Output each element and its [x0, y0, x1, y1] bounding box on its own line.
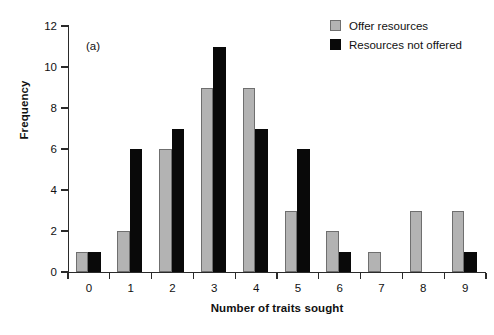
- bar: [130, 149, 143, 272]
- y-axis-tick: 12: [61, 25, 68, 26]
- bar: [326, 231, 339, 272]
- bar: [368, 252, 381, 273]
- legend-item-label: Offer resources: [349, 20, 428, 32]
- x-axis-tick: [67, 273, 68, 279]
- y-axis-tick-label: 6: [51, 143, 57, 155]
- y-axis-tick-label: 12: [44, 20, 57, 32]
- bar: [464, 252, 477, 273]
- bar: [117, 231, 130, 272]
- y-axis-tick: 4: [61, 189, 68, 190]
- bar: [452, 211, 465, 273]
- y-axis-tick: 10: [61, 66, 68, 67]
- chart-legend: Offer resourcesResources not offered: [330, 16, 462, 54]
- x-axis-tick-label: 6: [320, 282, 360, 294]
- bar-chart-figure: Frequency 024681012 0123456789 (a) Numbe…: [0, 0, 494, 335]
- x-axis-tick-label: 7: [362, 282, 402, 294]
- x-axis-tick-label: 5: [278, 282, 318, 294]
- bar: [88, 252, 101, 273]
- x-axis-title: Number of traits sought: [68, 302, 486, 314]
- y-axis-tick-label: 2: [51, 225, 57, 237]
- bar: [297, 149, 310, 272]
- bar: [285, 211, 298, 273]
- y-axis-tick: 2: [61, 230, 68, 231]
- panel-label: (a): [86, 40, 100, 52]
- x-axis-tick: [151, 273, 152, 279]
- y-axis-tick-label: 4: [51, 184, 57, 196]
- x-axis-tick: [235, 273, 236, 279]
- bar: [201, 88, 214, 273]
- y-axis-tick: 6: [61, 148, 68, 149]
- legend-item-label: Resources not offered: [349, 39, 462, 51]
- black-swatch: [330, 39, 341, 50]
- y-axis-title: Frequency: [18, 40, 30, 180]
- bar: [339, 252, 352, 273]
- x-axis-tick-label: 3: [194, 282, 234, 294]
- x-axis-tick: [360, 273, 361, 279]
- x-axis-tick: [402, 273, 403, 279]
- bar: [76, 252, 89, 273]
- x-axis-tick-label: 8: [403, 282, 443, 294]
- x-axis-tick-label: 1: [111, 282, 151, 294]
- x-axis-tick: [109, 273, 110, 279]
- x-axis-tick-label: 2: [153, 282, 193, 294]
- y-axis-tick-label: 8: [51, 102, 57, 114]
- gray-swatch: [330, 20, 341, 31]
- bar: [172, 129, 185, 273]
- x-axis-tick-label: 9: [445, 282, 485, 294]
- bar: [159, 149, 172, 272]
- y-axis-tick-label: 0: [51, 266, 57, 278]
- bar: [255, 129, 268, 273]
- legend-item: Offer resources: [330, 16, 462, 35]
- x-axis-tick: [193, 273, 194, 279]
- bar: [213, 47, 226, 273]
- x-axis-tick-label: 0: [69, 282, 109, 294]
- x-axis-tick: [318, 273, 319, 279]
- x-axis-tick: [444, 273, 445, 279]
- x-axis-tick: [276, 273, 277, 279]
- legend-item: Resources not offered: [330, 35, 462, 54]
- x-axis-tick: [485, 273, 486, 279]
- bars-layer: [68, 26, 486, 272]
- bar: [243, 88, 256, 273]
- bar: [410, 211, 423, 273]
- y-axis-tick: 8: [61, 107, 68, 108]
- x-axis-tick-label: 4: [236, 282, 276, 294]
- y-axis-tick-label: 10: [44, 61, 57, 73]
